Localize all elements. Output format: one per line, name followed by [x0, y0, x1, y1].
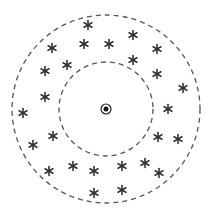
asterisk-marker — [48, 44, 56, 53]
asterisk-marker — [129, 56, 137, 65]
asterisk-marker — [153, 45, 161, 54]
asterisk-marker — [63, 61, 71, 70]
asterisk-marker — [41, 93, 49, 102]
asterisk-marker — [105, 40, 113, 49]
asterisk-marker — [45, 167, 53, 176]
asterisk-marker — [49, 132, 57, 141]
asterisk-marker — [129, 31, 137, 40]
asterisk-markers — [19, 21, 187, 198]
asterisk-marker — [164, 105, 172, 114]
asterisk-marker — [80, 40, 88, 49]
asterisk-marker — [154, 133, 162, 142]
asterisk-marker — [174, 135, 182, 144]
asterisk-marker — [118, 186, 126, 195]
center-circled-dot-icon — [101, 104, 111, 114]
asterisk-marker — [179, 84, 187, 93]
asterisk-marker — [141, 159, 149, 168]
asterisk-marker — [118, 162, 126, 171]
concentric-circles-diagram — [0, 0, 210, 215]
asterisk-marker — [90, 167, 98, 176]
asterisk-marker — [155, 169, 163, 178]
asterisk-marker — [41, 67, 49, 76]
asterisk-marker — [69, 162, 77, 171]
asterisk-marker — [29, 141, 37, 150]
asterisk-marker — [84, 21, 92, 30]
asterisk-marker — [90, 189, 98, 198]
asterisk-marker — [153, 70, 161, 79]
asterisk-marker — [19, 109, 27, 118]
